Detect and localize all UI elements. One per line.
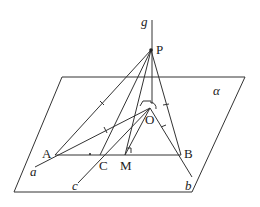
segment-PB (151, 50, 181, 155)
line-a (35, 108, 150, 167)
line-c (78, 108, 150, 183)
segment-PC (100, 50, 151, 155)
tick-OB (161, 125, 166, 127)
label-b: b (185, 178, 192, 193)
geometry-diagram: g P O A B C M a b c α (0, 0, 260, 207)
segment-PM (125, 50, 151, 155)
label-g: g (141, 14, 148, 29)
segment-PA (55, 50, 151, 155)
label-M: M (120, 158, 132, 173)
right-angle-mark-O (140, 101, 151, 106)
label-c: c (72, 178, 78, 193)
tick-PB (163, 104, 169, 105)
label-C: C (99, 158, 108, 173)
point-P (149, 48, 153, 52)
diagram-svg: g P O A B C M a b c α (0, 0, 260, 207)
angle-arc-O (150, 102, 156, 109)
label-a: a (30, 164, 37, 179)
label-O: O (145, 112, 154, 127)
label-alpha: α (213, 83, 221, 98)
label-P: P (156, 42, 163, 57)
point-C-dot (89, 153, 91, 155)
label-B: B (184, 146, 193, 161)
label-A: A (42, 146, 52, 161)
